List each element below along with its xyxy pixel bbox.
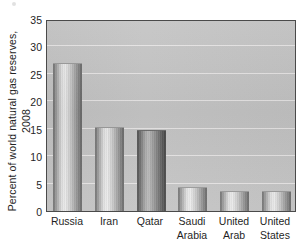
x-tick-label: Iran: [88, 215, 130, 229]
bar: [53, 63, 82, 211]
y-tick-label: 5: [20, 179, 42, 190]
y-axis-tick-labels: 05101520253035: [20, 14, 42, 218]
bar: [137, 130, 166, 211]
x-tick-label-line: States: [254, 229, 296, 243]
x-tick-label: Russia: [46, 215, 88, 229]
x-tick-label: UnitedArab: [213, 215, 255, 242]
x-tick-label-line: United: [260, 215, 290, 227]
x-tick-label-line: Arabia: [171, 229, 213, 243]
x-tick-label-line: Qatar: [137, 215, 163, 227]
bar: [262, 191, 291, 211]
y-axis-title-line-1: Percent of world natural gas reserves,: [6, 31, 18, 212]
y-tick-label: 25: [20, 69, 42, 80]
x-tick-label-line: Saudi: [179, 215, 206, 227]
plot-area: [46, 20, 296, 212]
x-tick-label-line: United: [219, 215, 249, 227]
y-tick-label: 20: [20, 97, 42, 108]
x-tick-label: UnitedStates: [254, 215, 296, 242]
bar-chart-figure: Percent of world natural gas reserves, 2…: [0, 0, 302, 246]
scan-artifact-speck: [12, 2, 16, 6]
bar: [178, 187, 207, 211]
bar-texture: [262, 192, 291, 211]
x-axis-tick-labels: RussiaIranQatarSaudiArabiaUnitedArabUnit…: [46, 215, 296, 246]
y-tick-label: 35: [20, 15, 42, 26]
bar-texture: [220, 192, 249, 211]
x-tick-label-line: Arab: [213, 229, 255, 243]
bar-series: [47, 21, 295, 211]
bar-texture: [137, 131, 166, 211]
bar-texture: [95, 128, 124, 211]
bar-texture: [178, 188, 207, 211]
x-tick-label-line: Russia: [51, 215, 83, 227]
bar: [95, 127, 124, 211]
x-tick-label: Qatar: [129, 215, 171, 229]
bar: [220, 191, 249, 211]
bar-texture: [53, 64, 82, 211]
y-tick-label: 10: [20, 152, 42, 163]
y-tick-label: 30: [20, 42, 42, 53]
x-tick-label-line: Iran: [100, 215, 118, 227]
y-tick-label: 15: [20, 124, 42, 135]
x-tick-label: SaudiArabia: [171, 215, 213, 242]
y-tick-label: 0: [20, 207, 42, 218]
